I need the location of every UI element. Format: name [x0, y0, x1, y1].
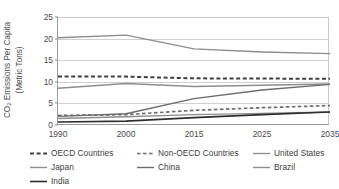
y-tick-label-5: 5 — [48, 98, 53, 108]
legend-swatch-brazil — [253, 163, 270, 172]
x-tick-label-2000: 2000 — [117, 129, 136, 139]
legend-item-japan[interactable]: Japan — [30, 162, 137, 172]
y-axis-title-line1: CO2 Emissions Per Capita — [3, 22, 12, 118]
legend-label-united-states: United States — [274, 148, 324, 158]
legend-swatch-china — [137, 163, 154, 172]
legend-swatch-united-states — [253, 149, 270, 158]
legend-row: India — [30, 174, 335, 188]
legend-label-non-oecd-countries: Non-OECD Countries — [158, 148, 239, 158]
y-tick-label-10: 10 — [44, 77, 53, 87]
chart-title-cutoff — [48, 0, 298, 4]
series-line-china — [58, 84, 330, 116]
x-tick-label-2035: 2035 — [321, 129, 339, 139]
legend-label-india: India — [51, 176, 69, 186]
legend-row: OECD CountriesNon-OECD CountriesUnited S… — [30, 146, 335, 160]
legend-swatch-oecd-countries — [30, 149, 47, 158]
legend-label-oecd-countries: OECD Countries — [51, 148, 114, 158]
plot-area: 0510152025 19902000201520252035 — [57, 17, 329, 125]
legend-label-china: China — [158, 162, 180, 172]
x-tick-label-1990: 1990 — [49, 129, 68, 139]
legend-swatch-non-oecd-countries — [137, 149, 154, 158]
series-line-united-states — [58, 35, 330, 54]
x-tick-label-2025: 2025 — [253, 129, 272, 139]
y-tick-label-20: 20 — [44, 34, 53, 44]
y-axis-title-line2: (Metric Tons) — [15, 46, 24, 93]
series-lines — [58, 17, 330, 125]
legend-swatch-india — [30, 177, 47, 186]
legend-item-china[interactable]: China — [137, 162, 253, 172]
legend-item-non-oecd-countries[interactable]: Non-OECD Countries — [137, 148, 253, 158]
legend-label-brazil: Brazil — [274, 162, 295, 172]
legend-swatch-japan — [30, 163, 47, 172]
legend-item-brazil[interactable]: Brazil — [253, 162, 335, 172]
x-tick-label-2015: 2015 — [185, 129, 204, 139]
legend-item-united-states[interactable]: United States — [253, 148, 335, 158]
y-tick-label-25: 25 — [44, 12, 53, 22]
legend-row: JapanChinaBrazil — [30, 160, 335, 174]
chart-legend: OECD CountriesNon-OECD CountriesUnited S… — [30, 146, 335, 188]
series-line-oecd-countries — [58, 77, 330, 79]
legend-item-india[interactable]: India — [30, 176, 137, 186]
legend-item-oecd-countries[interactable]: OECD Countries — [30, 148, 137, 158]
legend-label-japan: Japan — [51, 162, 74, 172]
y-tick-label-15: 15 — [44, 55, 53, 65]
